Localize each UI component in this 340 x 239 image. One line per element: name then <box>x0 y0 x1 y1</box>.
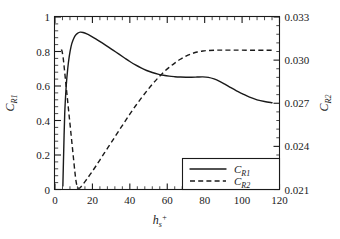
svg-text:CR2: CR2 <box>317 95 333 112</box>
y-tick-label-left: 0 <box>45 184 51 196</box>
y-tick-label-left: 1 <box>45 11 51 23</box>
chart-plot-area: 020406080100120 00.20.40.60.81 0.0210.02… <box>0 0 340 239</box>
chart-legend: CR1 CR2 <box>183 159 280 191</box>
svg-text:hs+: hs+ <box>153 213 168 229</box>
chart-figure: 020406080100120 00.20.40.60.81 0.0210.02… <box>0 0 340 239</box>
y-tick-label-right: 0.027 <box>285 97 310 109</box>
x-tick-label: 0 <box>52 194 58 206</box>
svg-text:CR1: CR1 <box>3 95 19 112</box>
x-tick-label: 60 <box>162 194 174 206</box>
y-axis-left-sub: R1 <box>10 95 19 105</box>
y-axis-right-sub: R2 <box>324 95 333 105</box>
x-axis-title: hs+ <box>153 213 168 229</box>
y-tick-label-left: 0.4 <box>36 115 50 127</box>
y-axis-title-right: CR2 <box>317 95 333 112</box>
y-tick-label-left: 0.8 <box>36 46 50 58</box>
x-tick-label: 100 <box>234 194 251 206</box>
y-tick-label-right: 0.024 <box>285 140 310 152</box>
y-tick-label-right: 0.021 <box>285 184 310 196</box>
y-axis-title-left: CR1 <box>3 95 19 112</box>
x-tick-label: 40 <box>124 194 136 206</box>
y-tick-labels-right: 0.0210.0240.0270.0300.033 <box>285 11 310 196</box>
y-tick-labels-left: 00.20.40.60.81 <box>36 11 50 196</box>
x-tick-label: 20 <box>87 194 99 206</box>
x-tick-labels: 020406080100120 <box>52 194 288 206</box>
y-tick-label-left: 0.2 <box>36 149 50 161</box>
y-tick-label-right: 0.033 <box>285 11 310 23</box>
x-tick-label: 80 <box>199 194 211 206</box>
y-tick-label-left: 0.6 <box>36 80 50 92</box>
x-axis-title-sup: + <box>162 213 167 222</box>
legend-box <box>183 159 280 190</box>
y-tick-label-right: 0.030 <box>285 54 310 66</box>
